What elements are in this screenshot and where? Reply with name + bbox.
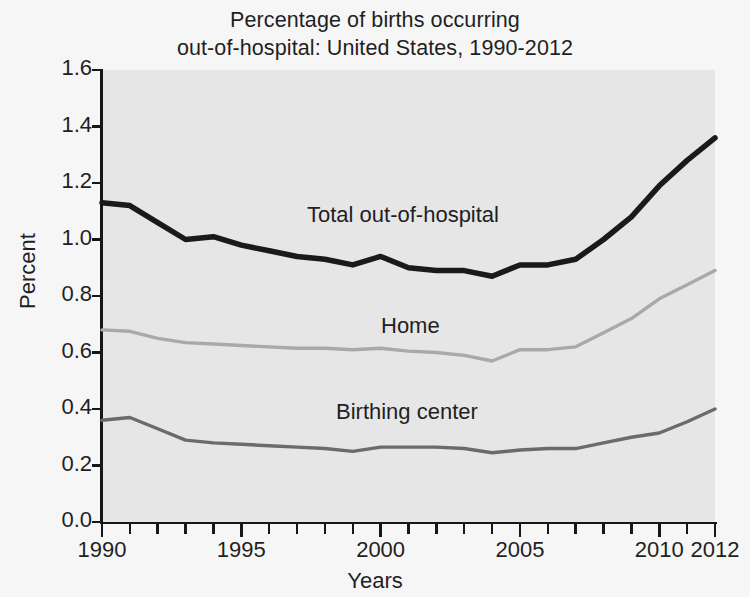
y-tick-label: 0.6 bbox=[30, 338, 92, 364]
y-tick-mark bbox=[92, 464, 101, 467]
y-tick-label: 0.2 bbox=[30, 451, 92, 477]
y-tick-mark bbox=[92, 125, 101, 128]
x-tick-mark bbox=[129, 524, 132, 534]
chart-title: Percentage of births occurring out-of-ho… bbox=[0, 6, 750, 62]
x-tick-mark bbox=[296, 524, 299, 534]
x-tick-mark bbox=[184, 524, 187, 534]
y-tick-mark bbox=[92, 351, 101, 354]
plot-area bbox=[102, 70, 715, 523]
x-tick-mark bbox=[714, 524, 717, 537]
x-tick-label: 2012 bbox=[670, 537, 750, 563]
x-tick-mark bbox=[686, 524, 689, 534]
series-label-birthing-center: Birthing center bbox=[336, 399, 478, 425]
x-tick-mark bbox=[463, 524, 466, 534]
chart-figure: Percentage of births occurring out-of-ho… bbox=[0, 0, 750, 597]
series-label-home: Home bbox=[381, 313, 440, 339]
y-tick-mark bbox=[92, 69, 101, 72]
y-tick-label: 1.6 bbox=[30, 55, 92, 81]
y-tick-mark bbox=[92, 238, 101, 241]
y-tick-mark bbox=[92, 408, 101, 411]
y-tick-label: 0.8 bbox=[30, 281, 92, 307]
x-tick-mark bbox=[101, 524, 104, 537]
x-tick-label: 2005 bbox=[475, 537, 565, 563]
y-tick-label: 1.2 bbox=[30, 168, 92, 194]
x-tick-mark bbox=[519, 524, 522, 537]
x-tick-mark bbox=[602, 524, 605, 534]
x-tick-mark bbox=[212, 524, 215, 534]
y-tick-mark bbox=[92, 521, 101, 524]
x-tick-mark bbox=[352, 524, 355, 534]
x-tick-mark bbox=[630, 524, 633, 534]
y-axis-title: Percent bbox=[15, 191, 41, 351]
y-tick-mark bbox=[92, 295, 101, 298]
x-tick-mark bbox=[268, 524, 271, 534]
y-tick-label: 0.4 bbox=[30, 394, 92, 420]
x-tick-label: 1990 bbox=[57, 537, 147, 563]
x-tick-mark bbox=[156, 524, 159, 534]
x-axis-title: Years bbox=[0, 568, 750, 594]
x-tick-mark bbox=[547, 524, 550, 534]
x-tick-mark bbox=[491, 524, 494, 534]
x-tick-label: 1995 bbox=[196, 537, 286, 563]
x-tick-mark bbox=[407, 524, 410, 534]
y-tick-label: 0.0 bbox=[30, 507, 92, 533]
x-tick-mark bbox=[240, 524, 243, 537]
x-tick-mark bbox=[379, 524, 382, 537]
x-tick-mark bbox=[324, 524, 327, 534]
y-tick-label: 1.0 bbox=[30, 225, 92, 251]
x-tick-mark bbox=[574, 524, 577, 534]
x-tick-mark bbox=[435, 524, 438, 534]
y-tick-mark bbox=[92, 182, 101, 185]
x-tick-label: 2000 bbox=[336, 537, 426, 563]
x-tick-mark bbox=[658, 524, 661, 537]
series-label-total-out-of-hospital: Total out-of-hospital bbox=[307, 202, 499, 228]
y-tick-label: 1.4 bbox=[30, 112, 92, 138]
